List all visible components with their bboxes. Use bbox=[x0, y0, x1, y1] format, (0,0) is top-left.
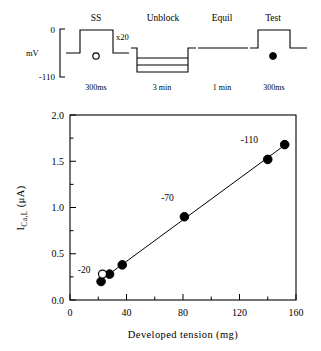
y-axis-tick-label: 1.5 bbox=[52, 156, 65, 167]
protocol-axis-unit-label: mV bbox=[26, 48, 40, 58]
x-axis-tick-labels: 04080120160 bbox=[68, 307, 304, 318]
fit-line-segment bbox=[100, 144, 286, 281]
phase-title-test: Test bbox=[265, 13, 281, 23]
phase-duration-unblock: 3 min bbox=[153, 83, 171, 92]
data-point-label: -110 bbox=[241, 135, 258, 145]
phase-duration-test: 300ms bbox=[263, 83, 284, 92]
data-point-label: -70 bbox=[161, 193, 174, 203]
y-axis-tick-label: 1.0 bbox=[52, 202, 65, 213]
y-axis-title-unit: (μA) bbox=[15, 185, 27, 207]
repeat-annotation-x20: x20 bbox=[116, 32, 129, 42]
voltage-protocol-diagram: SS Unblock Equil Test 0 mV -110 x20 300m… bbox=[0, 0, 321, 100]
data-point-filled bbox=[180, 212, 189, 221]
scatter-chart: 0.00.51.01.52.0 04080120160 -20-70-110 D… bbox=[0, 100, 321, 351]
x-axis-tick-label: 120 bbox=[232, 307, 247, 318]
trace-segment-unblock bbox=[131, 48, 196, 72]
x-axis-tick-label: 80 bbox=[178, 307, 188, 318]
figure-root: SS Unblock Equil Test 0 mV -110 x20 300m… bbox=[0, 0, 321, 351]
y-axis-tick-label: 2.0 bbox=[52, 110, 65, 121]
x-axis-tick-label: 40 bbox=[122, 307, 132, 318]
regression-line bbox=[100, 144, 286, 281]
data-point-label: -20 bbox=[78, 265, 91, 275]
y-axis-ticks bbox=[70, 115, 76, 300]
data-point-filled bbox=[263, 155, 272, 164]
data-point-open bbox=[98, 270, 106, 278]
x-axis-tick-label: 160 bbox=[289, 307, 304, 318]
x-axis-tick-label: 0 bbox=[68, 307, 73, 318]
data-point-filled bbox=[280, 140, 289, 149]
trace-segment-test bbox=[250, 30, 307, 48]
y-axis-title-subscript: Ca,L bbox=[20, 210, 29, 226]
y-axis-tick-labels: 0.00.51.01.52.0 bbox=[52, 110, 65, 306]
y-axis-title: ICa,L (μA) bbox=[15, 185, 29, 230]
phase-title-ss: SS bbox=[91, 13, 102, 23]
x-axis-ticks bbox=[70, 294, 296, 300]
protocol-axis-bottom-label: -110 bbox=[39, 72, 56, 82]
data-point-filled bbox=[118, 261, 127, 270]
y-axis-tick-label: 0.0 bbox=[52, 295, 65, 306]
protocol-axis-bracket bbox=[60, 29, 65, 77]
data-point-filled bbox=[97, 277, 106, 286]
x-axis-title: Developed tension (mg) bbox=[128, 329, 238, 341]
phase-title-unblock: Unblock bbox=[147, 13, 180, 23]
y-axis-tick-label: 0.5 bbox=[52, 248, 65, 259]
svg-text:ICa,L (μA): ICa,L (μA) bbox=[15, 185, 29, 230]
test-filled-circle-marker bbox=[270, 53, 277, 60]
ss-open-circle-marker bbox=[93, 53, 99, 59]
phase-duration-equil: 1 min bbox=[213, 83, 231, 92]
point-annotations: -20-70-110 bbox=[78, 135, 258, 275]
phase-title-equil: Equil bbox=[212, 13, 233, 23]
phase-duration-ss: 300ms bbox=[85, 83, 106, 92]
protocol-axis-top-label: 0 bbox=[51, 25, 56, 35]
